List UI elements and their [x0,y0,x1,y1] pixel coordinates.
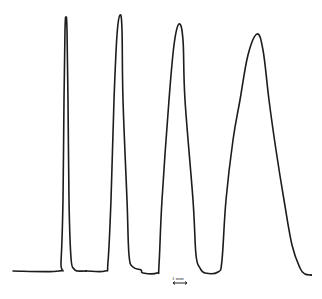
chart-plot-area [0,0,322,299]
signal-trace [13,15,311,275]
scale-bar-label: 1 mm [172,276,184,281]
trace-end-marker [310,274,312,276]
scale-bar [173,282,187,285]
baseline-tick-mark [85,270,87,272]
